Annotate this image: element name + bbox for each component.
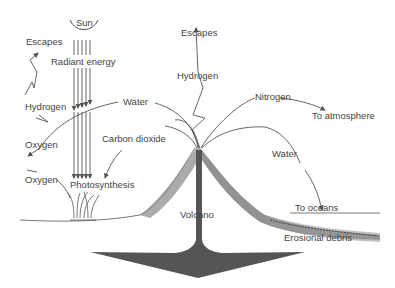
- radiant-energy-label: Radiant energy: [51, 57, 115, 67]
- hydrogen-top-label: Hydrogen: [177, 71, 218, 81]
- nitrogen-label: Nitrogen: [255, 92, 291, 102]
- oxygen-upper-label: Oxygen: [25, 140, 58, 150]
- water-right-label: Water: [272, 149, 297, 159]
- water-left-label: Water: [123, 97, 148, 107]
- erosional-debris-label: Erosional debris: [284, 233, 352, 243]
- photosynthesis-label: Photosynthesis: [70, 180, 134, 190]
- volcanic-outgassing-diagram: Sun Radiant energy Escapes Hydrogen Wate…: [0, 0, 395, 288]
- escapes-left-label: Escapes: [26, 37, 62, 47]
- volcano-slopes: [140, 148, 380, 242]
- plant-icon: [68, 192, 99, 220]
- sun-label: Sun: [76, 18, 93, 28]
- hydrogen-left-label: Hydrogen: [25, 102, 66, 112]
- escapes-top-label: Escapes: [181, 28, 217, 38]
- to-atmosphere-label: To atmosphere: [312, 111, 375, 121]
- volcano-label: Volcano: [180, 210, 214, 220]
- to-oceans-label: To oceans: [295, 203, 338, 213]
- carbon-dioxide-label: Carbon dioxide: [102, 134, 166, 144]
- oxygen-lower-label: Oxygen: [25, 175, 58, 185]
